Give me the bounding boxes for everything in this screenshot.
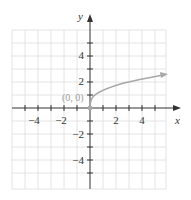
y-axis-label: y <box>77 10 83 22</box>
y-tick-label: 2 <box>79 75 85 87</box>
y-axis-arrow-icon <box>87 14 93 22</box>
x-axis-arrow-icon <box>173 105 181 111</box>
sqrt-curve <box>90 75 163 108</box>
x-tick-label: −2 <box>55 114 67 126</box>
x-axis-label: x <box>174 114 180 126</box>
x-tick-label: 4 <box>139 114 145 126</box>
curve-arrow-icon <box>160 72 168 78</box>
x-tick-label: −4 <box>28 114 40 126</box>
origin-point <box>88 106 93 111</box>
origin-label: (0, 0) <box>62 92 84 104</box>
x-axis <box>12 105 176 111</box>
y-tick-label: −4 <box>72 154 84 166</box>
y-tick-label: −2 <box>72 128 84 140</box>
y-tick-label: 4 <box>79 49 85 61</box>
x-tick-label: 2 <box>113 114 119 126</box>
graph: y x −4 −2 2 4 4 2 −2 −4 (0, 0) <box>0 0 191 200</box>
